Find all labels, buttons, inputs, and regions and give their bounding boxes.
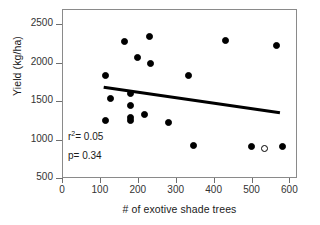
- x-tick-mark: [138, 178, 139, 183]
- data-point-filled: [141, 111, 148, 118]
- r-squared-value: = 0.05: [75, 131, 103, 142]
- y-tick-label: 1500: [0, 94, 53, 105]
- x-tick-mark: [289, 178, 290, 183]
- scatter-plot-figure: Yield (kg/ha) 5001000150020002500 010020…: [0, 0, 320, 225]
- x-tick-label: 500: [232, 184, 272, 195]
- y-tick-mark: [56, 24, 62, 25]
- x-tick-mark: [62, 178, 63, 183]
- x-tick-label: 100: [80, 184, 120, 195]
- x-tick-mark: [176, 178, 177, 183]
- y-tick-label: 1000: [0, 133, 53, 144]
- y-tick-label: 500: [0, 171, 53, 182]
- y-tick-label: 2000: [0, 56, 53, 67]
- x-tick-mark: [252, 178, 253, 183]
- data-point-filled: [107, 95, 114, 102]
- x-tick-label: 600: [269, 184, 309, 195]
- y-tick-mark: [56, 101, 62, 102]
- y-tick-mark: [56, 63, 62, 64]
- r-squared-annotation: r2= 0.05: [68, 130, 103, 142]
- data-point-filled: [273, 42, 280, 49]
- data-point-filled: [185, 72, 192, 79]
- p-value-annotation: p= 0.34: [68, 150, 102, 161]
- x-tick-mark: [214, 178, 215, 183]
- x-tick-label: 200: [118, 184, 158, 195]
- y-tick-mark: [56, 140, 62, 141]
- x-tick-mark: [100, 178, 101, 183]
- x-tick-label: 400: [194, 184, 234, 195]
- data-point-open: [261, 145, 268, 152]
- y-tick-label: 2500: [0, 17, 53, 28]
- data-point-filled: [102, 117, 109, 124]
- x-tick-label: 0: [42, 184, 82, 195]
- x-tick-label: 300: [156, 184, 196, 195]
- x-axis-title: # of exotive shade trees: [62, 203, 297, 215]
